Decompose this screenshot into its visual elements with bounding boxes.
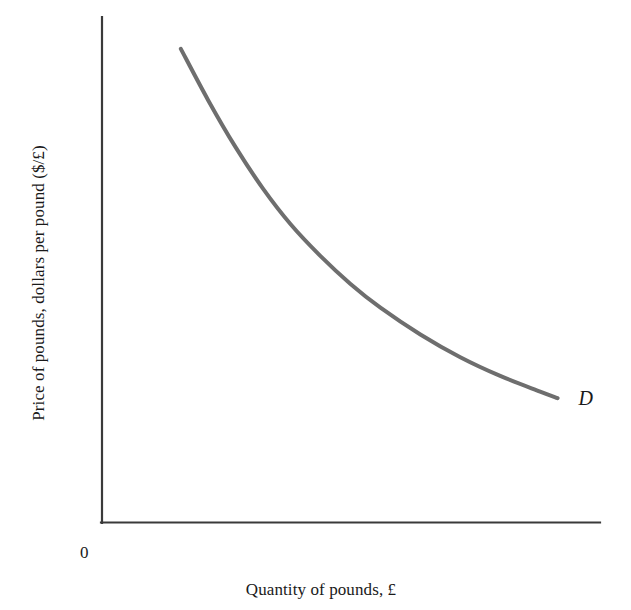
demand-curve-figure: Price of pounds, dollars per pound ($/£)… [0,0,631,610]
x-axis-label: Quantity of pounds, £ [101,580,541,600]
y-axis-label: Price of pounds, dollars per pound ($/£) [26,23,52,543]
chart-canvas [0,0,631,610]
origin-label: 0 [80,543,89,563]
demand-curve-path [181,49,558,398]
demand-curve-label: D [579,387,593,410]
